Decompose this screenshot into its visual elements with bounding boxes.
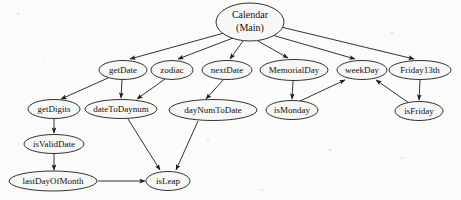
node-lastDayOfMonth[interactable]: lastDayOfMonth xyxy=(9,171,97,191)
node-label-getDigits: getDigits xyxy=(38,104,71,114)
node-nextDate[interactable]: nextDate xyxy=(202,61,252,80)
edge-dateToDaynum-to-isLeap xyxy=(128,119,160,170)
node-isFriday[interactable]: isFriday xyxy=(395,102,443,121)
node-isValidDate[interactable]: isValidDate xyxy=(24,135,84,154)
node-label-dayNumToDate: dayNumToDate xyxy=(184,105,241,115)
node-label-zodiac: zodiac xyxy=(160,65,183,75)
node-label-Friday13th: Friday13th xyxy=(400,65,440,75)
edge-calendar-to-MemorialDay xyxy=(258,41,288,58)
nodes-layer: Calendar(Main)getDatezodiacnextDateMemor… xyxy=(9,3,451,191)
node-label-nextDate: nextDate xyxy=(211,65,243,75)
edge-getDate-to-dateToDaynum xyxy=(121,80,122,98)
node-label-dateToDaynum: dateToDaynum xyxy=(93,104,148,114)
figure-caption xyxy=(0,191,461,200)
node-calendar[interactable]: Calendar(Main) xyxy=(216,3,284,41)
edge-nextDate-to-dayNumToDate xyxy=(206,80,223,99)
node-MemorialDay[interactable]: MemorialDay xyxy=(260,60,328,81)
node-label-isLeap: isLeap xyxy=(156,176,180,186)
node-isMonday[interactable]: isMonday xyxy=(266,101,318,120)
node-label-isMonday: isMonday xyxy=(274,105,311,115)
graph-canvas: Calendar(Main)getDatezodiacnextDateMemor… xyxy=(0,0,461,200)
edge-isFriday-to-weekDay xyxy=(376,80,409,103)
edge-calendar-to-getDate xyxy=(130,33,224,59)
edge-Friday13th-to-isFriday xyxy=(419,80,420,100)
node-Friday13th[interactable]: Friday13th xyxy=(389,61,451,80)
node-label-calendar: Calendar xyxy=(232,9,269,20)
edge-dayNumToDate-to-isLeap xyxy=(176,121,198,170)
node-dateToDaynum[interactable]: dateToDaynum xyxy=(85,100,157,119)
node-getDigits[interactable]: getDigits xyxy=(28,100,80,119)
node-getDate[interactable]: getDate xyxy=(99,61,147,80)
node-zodiac[interactable]: zodiac xyxy=(151,61,193,80)
edge-MemorialDay-to-isMonday xyxy=(292,81,293,99)
node-label-weekDay: weekDay xyxy=(345,65,379,75)
edge-isMonday-to-weekDay xyxy=(300,80,345,101)
edge-calendar-to-weekDay xyxy=(272,35,355,59)
edge-calendar-to-nextDate xyxy=(230,41,243,59)
node-label-getDate: getDate xyxy=(109,65,137,75)
node-label-isValidDate: isValidDate xyxy=(33,139,75,149)
node-label-lastDayOfMonth: lastDayOfMonth xyxy=(23,176,84,186)
node-isLeap[interactable]: isLeap xyxy=(146,172,190,191)
call-graph-diagram: Calendar(Main)getDatezodiacnextDateMemor… xyxy=(0,0,461,200)
edge-zodiac-to-dateToDaynum xyxy=(137,79,165,99)
node-weekDay[interactable]: weekDay xyxy=(337,61,387,80)
node-sublabel-calendar: (Main) xyxy=(236,22,264,34)
edge-calendar-to-zodiac xyxy=(178,38,233,59)
node-label-isFriday: isFriday xyxy=(404,106,434,116)
edge-getDate-to-getDigits xyxy=(61,78,108,99)
node-label-MemorialDay: MemorialDay xyxy=(269,65,320,75)
node-dayNumToDate[interactable]: dayNumToDate xyxy=(169,100,257,121)
